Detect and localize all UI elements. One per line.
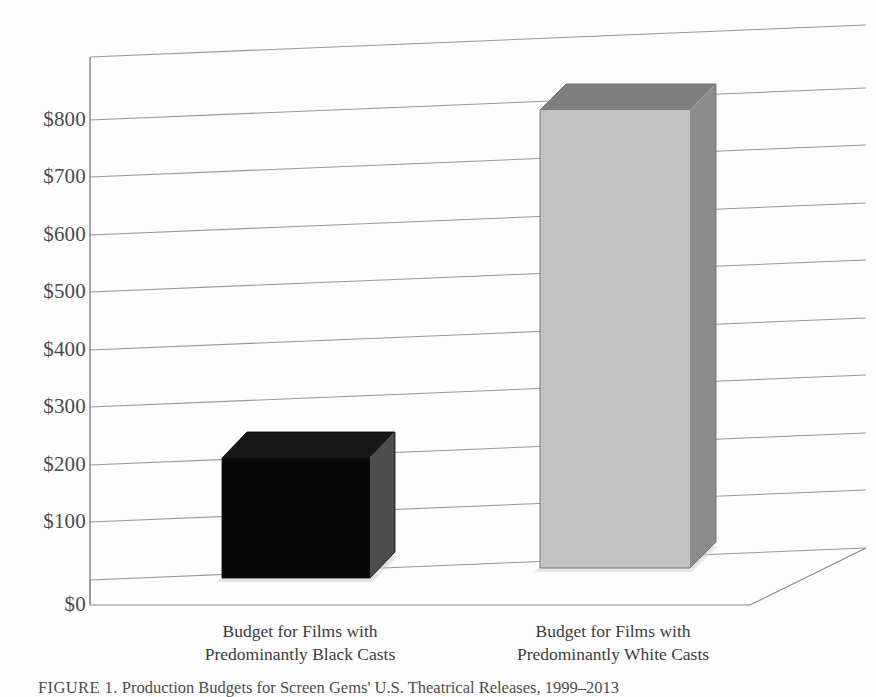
category-white-line1: Budget for Films with <box>468 620 758 643</box>
bar-black-front-face <box>222 458 370 578</box>
category-black-line1: Budget for Films with <box>155 620 445 643</box>
y-axis-tick-labels: $800 $700 $600 $500 $400 $300 $200 $100 … <box>8 0 86 640</box>
gridline-400 <box>90 318 866 350</box>
gridline-800 <box>90 88 866 120</box>
gridline-100 <box>90 490 866 522</box>
floor-right-edge <box>750 548 866 605</box>
y-tick-200: $200 <box>12 452 86 477</box>
gridlines-group <box>90 25 866 580</box>
gridline-500 <box>90 260 866 292</box>
gridline-0 <box>90 548 866 580</box>
bar-white-casts <box>534 84 718 572</box>
bar-gray-top-face <box>540 84 716 110</box>
category-label-black-casts: Budget for Films with Predominantly Blac… <box>155 620 445 666</box>
gridline-200 <box>90 433 866 465</box>
figure-caption: FIGURE 1. Production Budgets for Screen … <box>38 678 858 697</box>
figure-caption-tag: FIGURE 1. <box>38 678 118 697</box>
y-tick-400: $400 <box>12 337 86 362</box>
category-black-line2: Predominantly Black Casts <box>155 643 445 666</box>
figure-container: $800 $700 $600 $500 $400 $300 $200 $100 … <box>0 0 876 697</box>
bar-chart-canvas <box>0 0 876 640</box>
y-tick-300: $300 <box>12 394 86 419</box>
gridline-300 <box>90 375 866 407</box>
category-white-line2: Predominantly White Casts <box>468 643 758 666</box>
bar-black-top-face <box>222 432 395 458</box>
bar-gray-side-face <box>690 84 716 568</box>
y-tick-800: $800 <box>12 107 86 132</box>
figure-caption-text: Production Budgets for Screen Gems' U.S.… <box>122 678 619 697</box>
y-tick-700: $700 <box>12 164 86 189</box>
y-tick-100: $100 <box>12 509 86 534</box>
gridline-700 <box>90 145 866 177</box>
bar-black-casts <box>216 432 398 582</box>
y-tick-500: $500 <box>12 279 86 304</box>
gridline-600 <box>90 203 866 235</box>
y-tick-600: $600 <box>12 222 86 247</box>
x-axis-category-labels: Budget for Films with Predominantly Blac… <box>0 612 876 672</box>
category-label-white-casts: Budget for Films with Predominantly Whit… <box>468 620 758 666</box>
gridline-top <box>90 25 866 57</box>
bar-gray-front-face <box>540 110 690 568</box>
